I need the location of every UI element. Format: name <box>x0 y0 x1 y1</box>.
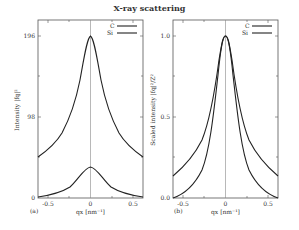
panel-b-label: (b) <box>174 207 183 214</box>
a-ylabel: Intensity |fq|² <box>13 89 21 131</box>
a-ytick-196: 196 <box>24 32 36 39</box>
b-ytick-1: 1.0 <box>160 32 170 39</box>
b-ylabel: Scaled intensity |fq|²/Z² <box>149 74 157 146</box>
legend-si-label-b: Si <box>242 29 248 36</box>
chart-canvas: C Si 0 98 196 -0.5 0 0.5 qx [nm⁻¹] (a) I… <box>0 0 299 230</box>
legend-a: C Si <box>107 22 137 36</box>
legend-c-label-a: C <box>110 22 115 29</box>
a-xlabel: qx [nm⁻¹] <box>76 208 105 216</box>
legend-si-label-a: Si <box>107 29 113 36</box>
panel-a-label: (a) <box>30 207 38 214</box>
a-xtick-0: 0 <box>89 200 93 207</box>
b-xtick-pos: 0.5 <box>263 200 273 207</box>
a-ytick-98: 98 <box>27 113 35 120</box>
a-ytick-0: 0 <box>31 194 35 201</box>
panel-b: C Si 0.0 0.5 1.0 -0.5 0 0.5 qx [nm⁻¹] (b… <box>149 20 278 216</box>
b-ytick-05: 0.5 <box>160 113 170 120</box>
legend-b: C Si <box>242 22 272 36</box>
b-xtick-0: 0 <box>224 200 228 207</box>
b-ytick-0: 0.0 <box>160 194 170 201</box>
panel-a: C Si 0 98 196 -0.5 0 0.5 qx [nm⁻¹] (a) I… <box>13 20 143 216</box>
b-xlabel: qx [nm⁻¹] <box>211 208 240 216</box>
b-xtick-neg: -0.5 <box>177 200 189 207</box>
a-xtick-pos: 0.5 <box>128 200 138 207</box>
a-xtick-neg: -0.5 <box>42 200 54 207</box>
legend-c-label-b: C <box>245 22 250 29</box>
